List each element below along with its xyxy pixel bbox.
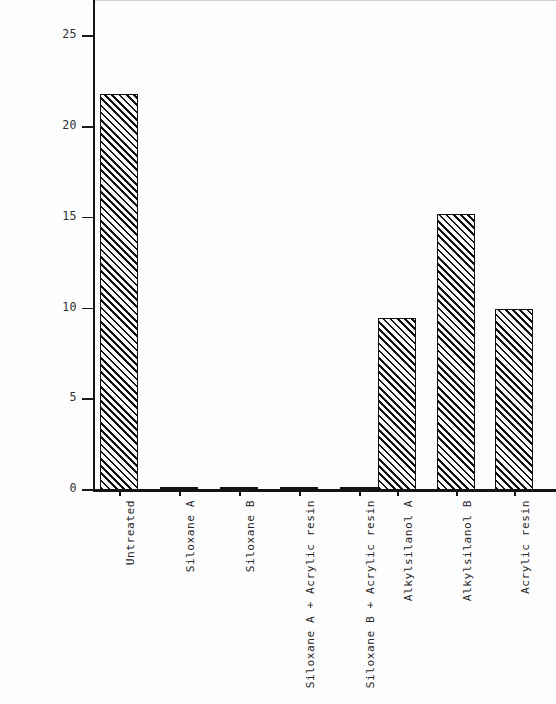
x-tick-5	[397, 491, 399, 496]
x-tick-label-5: Alkylsilanol A	[402, 500, 418, 700]
y-tick-label-25: 25	[62, 27, 77, 41]
chart-figure: Invasion of chloride ion (mm) 0510152025…	[0, 0, 556, 704]
x-tick-label-1: Siloxane A	[184, 500, 200, 700]
y-tick-0: 0	[82, 489, 93, 491]
x-tick-2	[239, 491, 241, 496]
x-tick-label-3: Siloxane A + Acrylic resin	[304, 500, 320, 700]
y-tick-15: 15	[82, 217, 93, 219]
y-tick-25: 25	[82, 35, 93, 37]
y-tick-label-10: 10	[62, 300, 77, 314]
bar-5	[378, 318, 416, 490]
x-tick-6	[456, 491, 458, 496]
y-tick-5: 5	[82, 398, 93, 400]
bar-0	[100, 94, 138, 490]
y-tick-label-0: 0	[70, 481, 77, 495]
y-tick-20: 20	[82, 126, 93, 128]
bar-1	[160, 487, 198, 490]
x-tick-1	[179, 491, 181, 496]
plot-area: 0510152025 UntreatedSiloxane ASiloxane B…	[93, 0, 556, 492]
bar-6	[437, 214, 475, 490]
x-tick-label-2: Siloxane B	[244, 500, 260, 700]
y-axis-line	[93, 0, 95, 492]
bar-3	[280, 487, 318, 490]
bar-7	[495, 309, 533, 491]
plot-top-border	[93, 0, 556, 1]
bar-4	[340, 487, 378, 490]
x-tick-4	[359, 491, 361, 496]
bar-2	[220, 487, 258, 490]
y-tick-10: 10	[82, 308, 93, 310]
x-tick-3	[299, 491, 301, 496]
x-tick-0	[119, 491, 121, 496]
x-tick-label-6: Alkylsilanol B	[461, 500, 477, 700]
x-tick-label-4: Siloxane B + Acrylic resin	[364, 500, 380, 700]
x-tick-7	[514, 491, 516, 496]
y-tick-label-20: 20	[62, 118, 77, 132]
x-tick-label-0: Untreated	[124, 500, 140, 700]
y-tick-label-15: 15	[62, 209, 77, 223]
y-tick-label-5: 5	[70, 390, 77, 404]
x-tick-label-7: Acrylic resin	[519, 500, 535, 700]
